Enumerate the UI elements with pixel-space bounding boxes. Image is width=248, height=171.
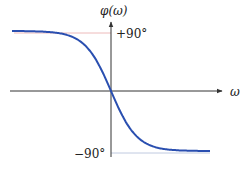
x-axis-label: ω [230,85,240,99]
plus-90-tick-label: +90° [116,27,147,41]
y-axis-label: φ(ω) [100,4,128,18]
minus-90-tick-label: −90° [74,147,105,161]
phase-plot: φ(ω) ω +90° −90° [0,0,248,171]
